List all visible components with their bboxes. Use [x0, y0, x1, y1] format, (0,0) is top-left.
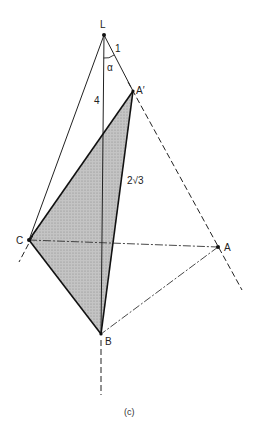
point-c: [27, 238, 31, 242]
label-b: B: [105, 336, 112, 347]
dashed-line-a'-a: [128, 82, 242, 290]
geometry-diagram: L A′ C A B 1 α 4 2√3 (c): [0, 0, 257, 424]
angle-label-alpha: α: [107, 62, 113, 73]
point-l: [102, 33, 106, 37]
figure-caption: (c): [124, 407, 135, 417]
label-a': A′: [136, 85, 145, 96]
dashdot-line-a-b: [101, 247, 218, 334]
point-b: [99, 332, 102, 335]
label-l: L: [100, 19, 106, 30]
label-c: C: [16, 235, 23, 246]
point-a': [131, 89, 134, 92]
edge-label-lb: 4: [94, 95, 100, 106]
edge-label-a'b: 2√3: [127, 175, 144, 186]
point-a: [216, 245, 220, 249]
edge-label-la': 1: [115, 43, 121, 54]
label-a: A: [224, 242, 231, 253]
angle-alpha-arc: [104, 55, 114, 58]
